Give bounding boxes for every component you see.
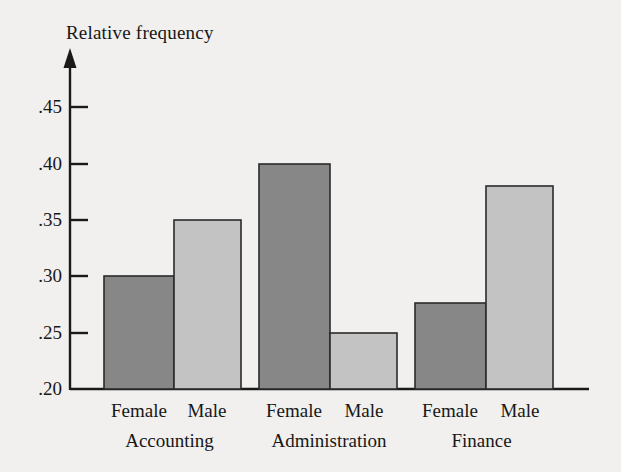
bar-accounting-female — [104, 276, 174, 389]
y-axis-arrow-icon — [64, 48, 77, 68]
bar-finance-female — [415, 303, 486, 389]
bar-administration-male — [330, 333, 397, 389]
group-label-accounting: Accounting — [92, 430, 247, 452]
bar-label-accounting-male: Male — [172, 400, 242, 422]
bar-label-accounting-female: Female — [99, 400, 179, 422]
ytick-label-020: .20 — [16, 378, 62, 400]
bar-label-administration-female: Female — [254, 400, 334, 422]
bar-label-finance-male: Male — [485, 400, 555, 422]
ytick-label-035: .35 — [16, 209, 62, 231]
bar-administration-female — [259, 164, 330, 389]
ytick-label-040: .40 — [16, 153, 62, 175]
relative-frequency-bar-chart: Relative frequency .45 .40 .35 .30 . — [0, 0, 621, 472]
group-label-finance: Finance — [404, 430, 559, 452]
bar-finance-male — [486, 186, 553, 389]
ytick-label-045: .45 — [16, 96, 62, 118]
group-label-administration: Administration — [244, 430, 414, 452]
y-axis-ticks — [70, 107, 88, 333]
bar-label-finance-female: Female — [410, 400, 490, 422]
bar-accounting-male — [174, 220, 241, 389]
ytick-label-030: .30 — [16, 265, 62, 287]
bar-label-administration-male: Male — [329, 400, 399, 422]
ytick-label-025: .25 — [16, 322, 62, 344]
